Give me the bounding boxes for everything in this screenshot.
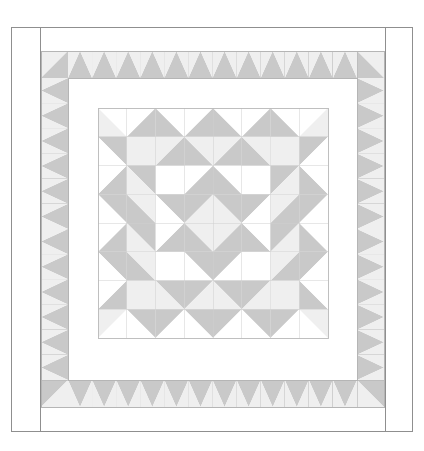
quilt-cell xyxy=(127,281,156,310)
quilt-cell xyxy=(156,166,185,195)
quilt-cell xyxy=(242,252,271,281)
quilt-pattern-svg xyxy=(0,0,424,451)
quilt-cell xyxy=(271,137,300,166)
quilt-diagram-page xyxy=(0,0,424,451)
quilt-cell xyxy=(242,166,271,195)
quilt-canvas xyxy=(0,0,424,451)
quilt-cell xyxy=(127,137,156,166)
quilt-cell xyxy=(156,252,185,281)
quilt-cell xyxy=(271,281,300,310)
